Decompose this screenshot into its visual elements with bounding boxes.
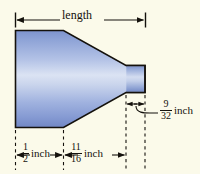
workpiece-body bbox=[16, 31, 146, 128]
eleven-sixteenths-unit: inch bbox=[82, 148, 103, 159]
neck-shading bbox=[126, 66, 144, 91]
nine-thirtyseconds-denominator: 32 bbox=[160, 111, 172, 121]
nine-thirtyseconds-dimension-label: 9 32 inch bbox=[160, 99, 193, 121]
length-label: length bbox=[62, 9, 92, 21]
eleven-sixteenths-numerator: 11 bbox=[70, 142, 82, 152]
half-inch-unit: inch bbox=[29, 148, 50, 159]
figure-canvas: length 1 2 inch 11 16 inch 9 32 inch bbox=[0, 0, 200, 174]
nine-thirtyseconds-dimension bbox=[127, 104, 158, 113]
nine-thirtyseconds-numerator: 9 bbox=[160, 99, 172, 109]
nine-thirtyseconds-leader bbox=[136, 106, 158, 113]
eleven-sixteenths-dimension-label: 11 16 inch bbox=[70, 142, 103, 164]
eleven-sixteenths-fraction: 11 16 bbox=[70, 142, 82, 164]
workpiece-outline bbox=[16, 31, 146, 128]
half-inch-numerator: 1 bbox=[22, 142, 29, 152]
half-inch-fraction: 1 2 bbox=[22, 142, 29, 164]
nine-thirtyseconds-unit: inch bbox=[172, 105, 193, 116]
nine-thirtyseconds-fraction: 9 32 bbox=[160, 99, 172, 121]
half-inch-dimension-label: 1 2 inch bbox=[22, 142, 50, 164]
eleven-sixteenths-denominator: 16 bbox=[70, 154, 82, 164]
half-inch-denominator: 2 bbox=[22, 154, 29, 164]
